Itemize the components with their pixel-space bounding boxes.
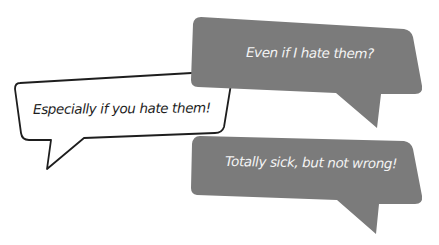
speech-bubbles-graphic [0, 0, 439, 245]
bottom-bubble-text: Totally sick, but not wrong! [225, 153, 397, 171]
speech-bubble-illustration: Even if I hate them? Especially if you h… [0, 0, 439, 245]
top-bubble-text: Even if I hate them? [246, 44, 374, 61]
bottom-speech-bubble-shape [191, 136, 422, 234]
middle-bubble-text: Especially if you hate them! [33, 99, 211, 117]
